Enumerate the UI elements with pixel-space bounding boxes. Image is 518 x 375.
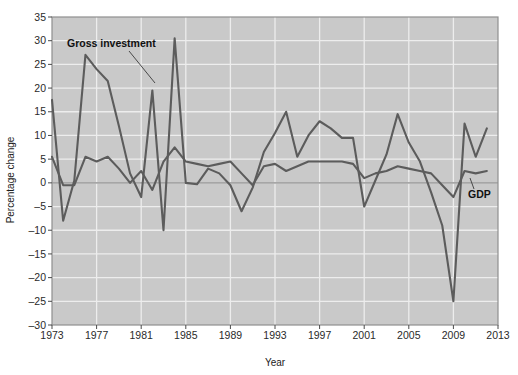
- y-tick-label--15: –15: [28, 248, 46, 260]
- x-tick-label-1973: 1973: [40, 329, 64, 341]
- y-tick-label--5: –5: [34, 200, 46, 212]
- x-tick-label-2013: 2013: [486, 329, 510, 341]
- x-tick-label-1981: 1981: [130, 329, 154, 341]
- y-tick-label-35: 35: [34, 11, 46, 23]
- y-tick-label--25: –25: [28, 295, 46, 307]
- x-tick-label-1997: 1997: [308, 329, 332, 341]
- x-tick-label-1993: 1993: [263, 329, 287, 341]
- y-tick-label-0: 0: [40, 176, 46, 188]
- chart-container: –30–25–20–15–10–505101520253035 19731977…: [0, 0, 518, 375]
- x-tick-label-1977: 1977: [85, 329, 109, 341]
- y-tick-label-5: 5: [40, 153, 46, 165]
- y-tick-label--20: –20: [28, 271, 46, 283]
- x-axis-title: Year: [265, 357, 286, 368]
- x-tick-label-1985: 1985: [174, 329, 198, 341]
- gdp-series-label: GDP: [468, 188, 491, 200]
- gross-investment-series-label: Gross investment: [67, 37, 156, 49]
- y-axis-title: Percentage change: [5, 136, 16, 223]
- y-tick-label-25: 25: [34, 58, 46, 70]
- x-tick-label-1989: 1989: [219, 329, 243, 341]
- y-tick-label-15: 15: [34, 105, 46, 117]
- y-tick-label--10: –10: [28, 224, 46, 236]
- gdp-gross-investment-line-chart: –30–25–20–15–10–505101520253035 19731977…: [0, 0, 518, 375]
- x-tick-label-2005: 2005: [397, 329, 421, 341]
- y-tick-label-30: 30: [34, 34, 46, 46]
- y-tick-label-10: 10: [34, 129, 46, 141]
- x-tick-label-2009: 2009: [442, 329, 466, 341]
- x-tick-label-2001: 2001: [353, 329, 377, 341]
- y-tick-label-20: 20: [34, 82, 46, 94]
